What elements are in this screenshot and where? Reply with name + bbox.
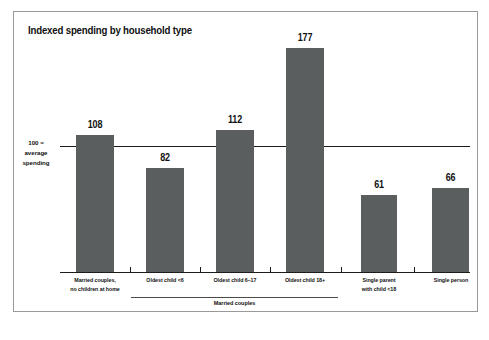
bar-value-label: 108 (78, 119, 112, 130)
bar-single-person[interactable] (432, 188, 469, 272)
x-tick-label-line-2: no children at home (52, 285, 138, 294)
bar-single-parent-child-under-18[interactable] (361, 195, 397, 272)
bars-layer (14, 12, 477, 311)
bar-value-label: 66 (434, 172, 467, 183)
bar-value-label: 177 (288, 32, 322, 43)
x-tick-label-line-1: Single person (408, 276, 489, 285)
bar-married-no-children[interactable] (76, 135, 114, 272)
x-tick-label-oldest-child-18-plus: Oldest child 18+ (262, 276, 348, 285)
axis-baseline (60, 272, 470, 273)
bar-oldest-child-6-17[interactable] (216, 130, 254, 272)
bar-oldest-child-18-plus[interactable] (286, 48, 324, 272)
axis-tick (414, 267, 415, 272)
bar-value-label: 82 (148, 152, 182, 163)
axis-tick (341, 267, 342, 272)
bar-value-label: 61 (363, 179, 395, 190)
x-tick-label-line-2: with child <18 (336, 285, 422, 294)
bar-value-label: 112 (218, 114, 252, 125)
x-tick-label-single-person: Single person (408, 276, 489, 285)
group-bracket-label: Married couples (136, 300, 333, 306)
axis-tick (130, 267, 131, 272)
x-tick-label-line-1: Oldest child 18+ (262, 276, 348, 285)
axis-tick (270, 267, 271, 272)
group-bracket-line (131, 297, 338, 298)
figure-canvas: Indexed spending by household type 100 =… (0, 0, 489, 340)
axis-tick (200, 267, 201, 272)
bar-oldest-child-under-6[interactable] (146, 168, 184, 272)
plot-area: 100 = average spending 108 82 112 177 61… (14, 12, 477, 311)
chart-frame: Indexed spending by household type 100 =… (13, 11, 478, 312)
